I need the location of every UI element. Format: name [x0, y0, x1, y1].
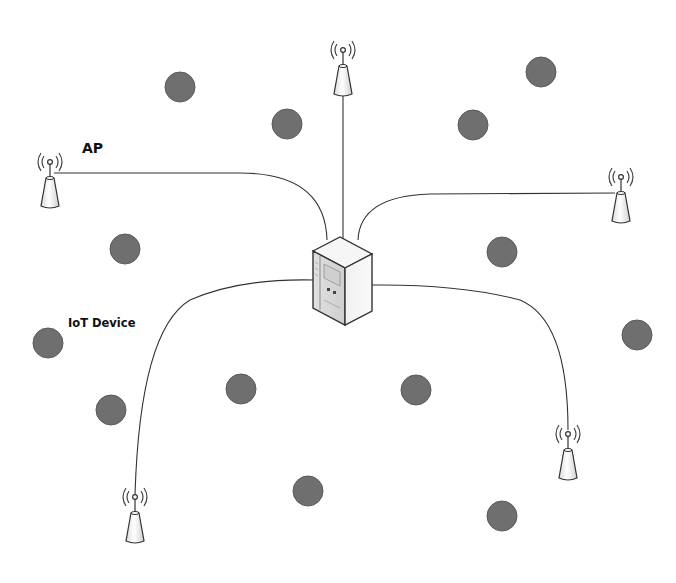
iot-device-icon [487, 237, 517, 267]
iot-device-icon [165, 72, 195, 102]
iot-device-icon [487, 501, 517, 531]
ap-label: AP [82, 140, 103, 156]
iot-network-diagram: AP IoT Device [0, 0, 676, 583]
iot-device-icon [272, 109, 302, 139]
access-point-icon [38, 153, 62, 208]
access-point-icon [123, 488, 147, 543]
access-point-icon [609, 168, 633, 223]
iot-device-icon [622, 320, 652, 350]
iot-device-icon [526, 57, 556, 87]
link-ap-bottom-left [135, 280, 315, 495]
iot-device-icon [96, 395, 126, 425]
iot-device-icon [401, 375, 431, 405]
iot-device-icon [293, 476, 323, 506]
iot-device-icon [110, 234, 140, 264]
iot-device-icon [458, 110, 488, 140]
link-ap-bottom-right [372, 285, 568, 430]
server-icon [313, 237, 372, 325]
link-ap-right [358, 193, 615, 240]
access-point-icon [331, 41, 355, 96]
iot-device-icon [226, 374, 256, 404]
link-ap-left [54, 173, 327, 240]
iot-device-icon [33, 328, 63, 358]
iot-device-label: IoT Device [68, 316, 136, 330]
access-point-icon [556, 425, 580, 480]
